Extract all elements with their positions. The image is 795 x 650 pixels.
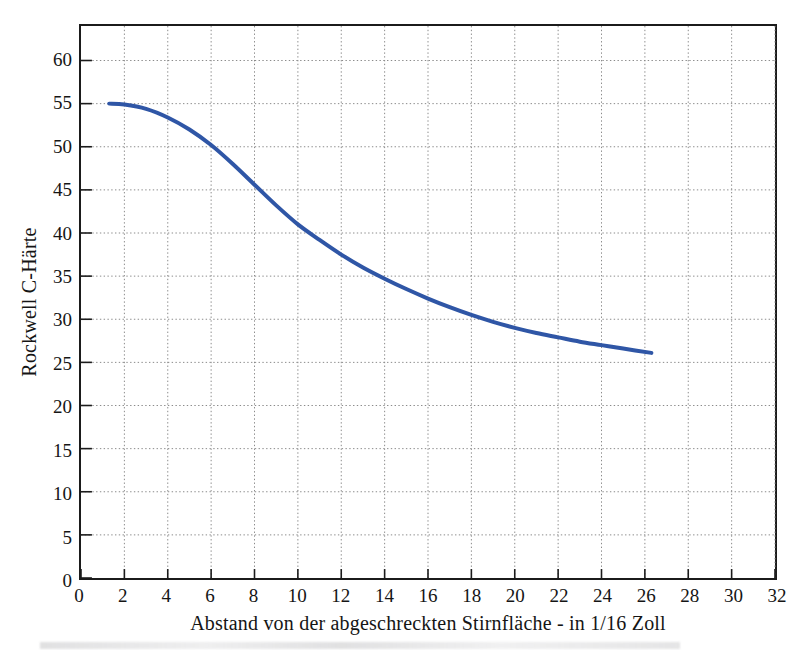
jominy-hardenability-chart: Rockwell C-Härte 05101520253035404550556… [0,0,795,650]
x-tick-label: 26 [626,586,666,605]
y-tick-label: 30 [36,310,72,329]
x-tick-label: 24 [583,586,623,605]
x-tick-label: 6 [190,586,230,605]
y-tick-label: 25 [36,354,72,373]
y-tick-label: 5 [36,528,72,547]
x-tick-label: 0 [59,586,99,605]
x-axis-title: Abstand von der abgeschreckten Stirnfläc… [79,612,777,635]
y-axis-tick-labels: 051015202530354045505560 [24,24,72,580]
y-tick-label: 15 [36,441,72,460]
x-tick-label: 20 [495,586,535,605]
x-tick-label: 18 [452,586,492,605]
y-tick-label: 45 [36,180,72,199]
y-tick-label: 55 [36,93,72,112]
y-tick-label: 35 [36,267,72,286]
x-tick-label: 22 [539,586,579,605]
x-tick-label: 4 [146,586,186,605]
x-tick-label: 8 [234,586,274,605]
x-tick-label: 10 [277,586,317,605]
x-tick-label: 30 [713,586,753,605]
hardness-curve [81,26,775,578]
x-tick-label: 2 [103,586,143,605]
x-tick-label: 14 [364,586,404,605]
x-tick-label: 16 [408,586,448,605]
page-footer-artifact [40,642,680,649]
plot-area [79,24,777,580]
x-axis-tick-labels: 02468101214161820222426283032 [79,586,777,610]
y-tick-label: 20 [36,397,72,416]
y-tick-label: 10 [36,484,72,503]
y-tick-label: 60 [36,50,72,69]
x-tick-label: 28 [670,586,710,605]
x-tick-label: 12 [321,586,361,605]
x-tick-label: 32 [757,586,795,605]
y-tick-label: 50 [36,137,72,156]
y-tick-label: 40 [36,224,72,243]
